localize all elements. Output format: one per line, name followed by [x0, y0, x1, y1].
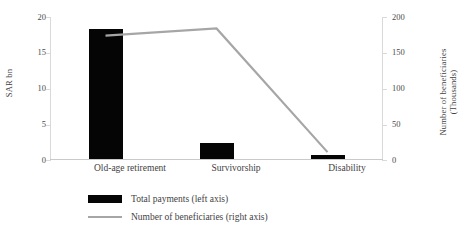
y-tick-right-50: 50 — [392, 119, 418, 129]
legend-bar-swatch-icon — [88, 195, 122, 203]
x-axis-category-labels: Old-age retirement Survivorship Disabili… — [50, 163, 383, 179]
legend-label-number-of-beneficiaries: Number of beneficiaries (right axis) — [131, 212, 268, 222]
y-axis-left-title: SAR bn — [4, 53, 14, 113]
beneficiaries-line-series — [50, 17, 383, 160]
y-tick-right-100: 100 — [392, 83, 418, 93]
tickmark-right-100 — [383, 89, 387, 90]
y-axis-right-title-line2: (Thousands) — [448, 22, 458, 162]
y-tick-left-0: 0 — [24, 155, 46, 165]
tickmark-right-0 — [383, 160, 387, 161]
x-label-disability: Disability — [267, 163, 427, 173]
beneficiaries-line-path — [106, 28, 328, 152]
y-tick-right-150: 150 — [392, 47, 418, 57]
y-axis-right-title-line1: Number of beneficiaries — [438, 22, 448, 162]
plot-area — [50, 17, 383, 160]
tickmark-left-0 — [46, 160, 50, 161]
y-tick-left-10: 10 — [24, 83, 46, 93]
legend-item-total-payments: Total payments (left axis) — [0, 190, 454, 208]
y-tick-left-20: 20 — [24, 12, 46, 22]
y-tick-left-5: 5 — [24, 119, 46, 129]
y-tick-right-200: 200 — [392, 12, 418, 22]
legend-line-swatch-icon — [88, 216, 122, 218]
y-axis-right-title: Number of beneficiaries (Thousands) — [438, 22, 458, 162]
legend-item-number-of-beneficiaries: Number of beneficiaries (right axis) — [0, 208, 454, 226]
legend-label-total-payments: Total payments (left axis) — [131, 194, 228, 204]
tickmark-right-200 — [383, 17, 387, 18]
tickmark-right-50 — [383, 125, 387, 126]
tickmark-right-150 — [383, 53, 387, 54]
y-tick-left-15: 15 — [24, 47, 46, 57]
chart-legend: Total payments (left axis) Number of ben… — [0, 190, 454, 226]
